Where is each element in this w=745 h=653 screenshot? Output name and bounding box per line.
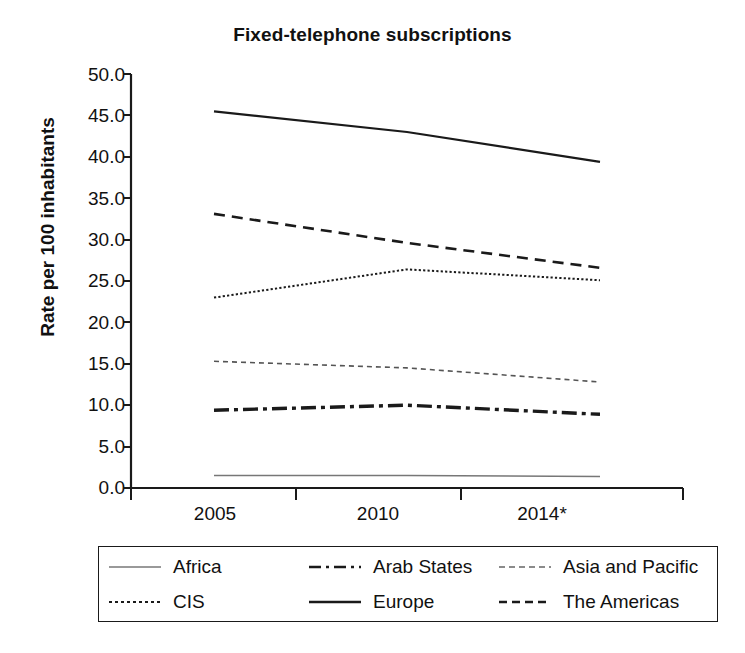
legend-label-europe: Europe bbox=[373, 591, 434, 613]
x-axis-ticks bbox=[131, 488, 683, 500]
legend-item-cis[interactable]: CIS bbox=[109, 591, 309, 613]
legend-item-europe[interactable]: Europe bbox=[309, 591, 499, 613]
legend-swatch-cis-icon bbox=[109, 595, 161, 609]
series-line-africa bbox=[214, 476, 600, 477]
legend-swatch-arab-states-icon bbox=[309, 560, 361, 574]
legend-item-the-americas[interactable]: The Americas bbox=[499, 591, 729, 613]
y-axis-ticks bbox=[123, 74, 131, 488]
legend-label-asia-and-pacific: Asia and Pacific bbox=[563, 556, 698, 578]
chart-legend: Africa Arab States Asia and Pacific CIS bbox=[98, 546, 718, 622]
legend-swatch-asia-and-pacific-icon bbox=[499, 560, 551, 574]
legend-label-arab-states: Arab States bbox=[373, 556, 472, 578]
legend-label-cis: CIS bbox=[173, 591, 205, 613]
legend-swatch-africa-icon bbox=[109, 560, 161, 574]
series-line-asia-and-pacific bbox=[214, 361, 600, 382]
legend-item-africa[interactable]: Africa bbox=[109, 556, 309, 578]
series-line-europe bbox=[214, 111, 600, 162]
chart-figure: Fixed-telephone subscriptions Rate per 1… bbox=[0, 0, 745, 653]
legend-swatch-the-americas-icon bbox=[499, 595, 551, 609]
legend-label-africa: Africa bbox=[173, 556, 222, 578]
series-line-cis bbox=[214, 269, 600, 297]
legend-item-asia-and-pacific[interactable]: Asia and Pacific bbox=[499, 556, 729, 578]
series-line-arab-states bbox=[214, 405, 600, 414]
legend-item-arab-states[interactable]: Arab States bbox=[309, 556, 499, 578]
legend-swatch-europe-icon bbox=[309, 595, 361, 609]
series-line-the-americas bbox=[214, 214, 600, 268]
legend-label-the-americas: The Americas bbox=[563, 591, 679, 613]
